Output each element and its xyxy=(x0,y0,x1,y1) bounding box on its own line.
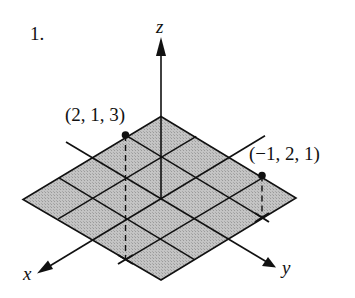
point-label-neg1-2-1: (−1, 2, 1) xyxy=(249,143,320,165)
y-axis-arrowhead-icon xyxy=(262,257,276,268)
point-label-2-1-3: (2, 1, 3) xyxy=(65,104,125,126)
problem-number: 1. xyxy=(30,23,44,45)
x-axis-label: x xyxy=(23,263,31,285)
z-axis-label: z xyxy=(156,16,163,38)
y-axis-label: y xyxy=(282,257,290,279)
x-axis-arrowhead-icon xyxy=(37,261,53,274)
z-axis-arrowhead-icon xyxy=(156,37,166,56)
point-marker-icon xyxy=(122,131,130,139)
point-marker-icon xyxy=(258,172,266,180)
